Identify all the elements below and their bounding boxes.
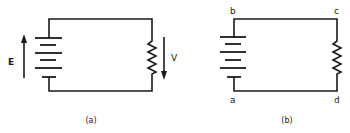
caption-b: (b) (281, 116, 292, 125)
circuit-b-wire-bottom (234, 76, 337, 91)
circuit-a-battery-icon (35, 38, 62, 77)
circuit-a-wire-top (49, 19, 152, 38)
circuit-b-resistor-icon (333, 38, 341, 76)
node-label-a: a (230, 95, 236, 105)
circuit-b: b c a d (b) (220, 6, 341, 125)
circuit-diagrams: E V (a) b c a d (b) (0, 0, 350, 133)
node-label-c: c (334, 6, 339, 16)
voltage-label-v: V (171, 53, 178, 63)
circuit-a-wire-bottom (49, 76, 152, 91)
circuit-a-resistor-icon (148, 38, 156, 76)
node-label-d: d (334, 95, 340, 105)
circuit-b-battery-icon (220, 37, 246, 77)
circuit-a: E V (a) (8, 19, 178, 125)
arrow-down-icon (161, 37, 167, 80)
circuit-b-wire-top (234, 19, 337, 38)
arrow-up-icon (21, 34, 27, 78)
caption-a: (a) (85, 116, 96, 125)
emf-label-e: E (8, 57, 14, 67)
node-label-b: b (230, 6, 236, 16)
